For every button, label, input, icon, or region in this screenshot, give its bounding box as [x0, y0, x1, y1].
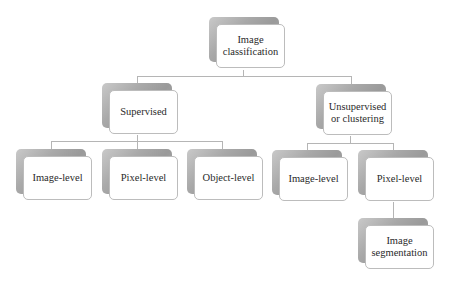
node-label: Image classification — [216, 24, 285, 68]
node-supervised-image-level: Image-level — [16, 149, 87, 195]
node-label: Pixel-level — [109, 156, 178, 200]
connector-to-image-segmentation — [393, 202, 394, 219]
node-label: Image-level — [279, 157, 348, 201]
node-label: Unsupervised or clustering — [323, 91, 392, 135]
node-label: Supervised — [109, 90, 178, 134]
node-label: Image-level — [23, 156, 92, 200]
node-label: Pixel-level — [365, 157, 434, 201]
connector-level1-bar — [137, 76, 352, 77]
node-unsupervised-image-level: Image-level — [272, 150, 343, 196]
node-unsupervised-or-clustering: Unsupervised or clustering — [316, 84, 387, 130]
node-supervised: Supervised — [102, 83, 173, 129]
node-image-segmentation: Image segmentation — [358, 218, 429, 264]
node-supervised-object-level: Object-level — [187, 149, 258, 195]
node-label: Image segmentation — [365, 225, 434, 269]
node-image-classification: Image classification — [209, 17, 280, 63]
connector-unsupervised-bar — [307, 143, 394, 144]
node-label: Object-level — [194, 156, 263, 200]
node-supervised-pixel-level: Pixel-level — [102, 149, 173, 195]
connector-to-unsupervised — [351, 76, 352, 84]
node-unsupervised-pixel-level: Pixel-level — [358, 150, 429, 196]
